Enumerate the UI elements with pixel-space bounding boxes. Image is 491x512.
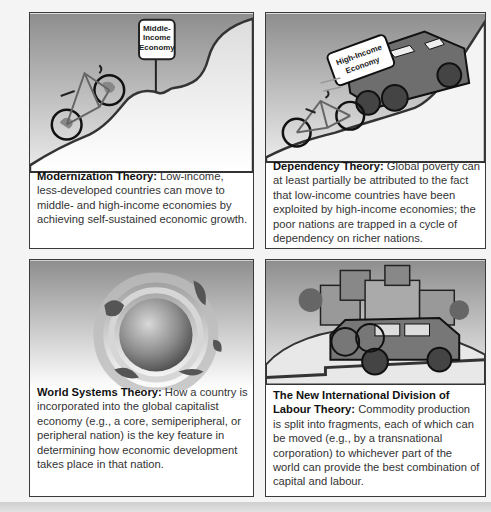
truck-bicycle-illustration: High-Income Economy (266, 13, 485, 163)
bottom-band (0, 502, 491, 512)
dependency-theory-panel: High-Income Economy Dependency Theory: G… (265, 12, 486, 249)
sign-text: Middle- (143, 24, 171, 33)
svg-text:Income: Income (143, 33, 171, 42)
modernization-theory-panel: Middle- Income Economy Modernization The… (29, 12, 254, 249)
bicycle-hill-illustration: Middle- Income Economy (30, 13, 253, 173)
dependency-theory-caption: Dependency Theory: Global poverty can at… (273, 159, 481, 245)
modernization-theory-caption: Modernization Theory: Low-income, less-d… (37, 169, 249, 227)
new-international-division-of-labour-panel: The New International Division of Labour… (265, 259, 486, 497)
world-systems-theory-caption: World Systems Theory: How a country is i… (37, 385, 249, 471)
globe-icon (119, 298, 192, 371)
vehicle-city-illustration (266, 260, 485, 385)
world-systems-theory-panel: World Systems Theory: How a country is i… (29, 259, 254, 497)
globe-illustration (30, 260, 253, 390)
new-international-division-of-labour-caption: The New International Division of Labour… (273, 388, 481, 489)
svg-text:Economy: Economy (139, 43, 175, 52)
